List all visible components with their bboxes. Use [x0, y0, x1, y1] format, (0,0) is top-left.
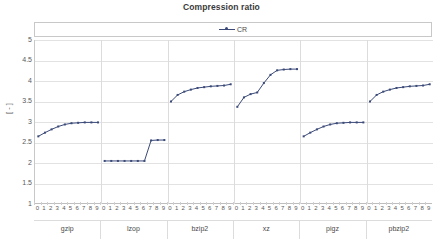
legend-label: CR	[237, 26, 247, 33]
data-point	[415, 85, 417, 87]
data-point	[243, 96, 245, 98]
data-point	[190, 89, 192, 91]
series-line-lzop	[105, 140, 165, 161]
data-point	[183, 91, 185, 93]
y-tick-label: 1	[6, 200, 32, 207]
data-point	[283, 69, 285, 71]
data-point	[409, 85, 411, 87]
data-point	[402, 86, 404, 88]
data-point	[356, 121, 358, 123]
x-group-label-bzip2: bzip2	[167, 225, 233, 232]
plot-grid	[34, 40, 432, 204]
x-group-label-pbzip2: pbzip2	[366, 225, 432, 232]
data-point	[210, 85, 212, 87]
data-point	[422, 85, 424, 87]
data-point	[157, 139, 159, 141]
y-tick-label: 1.5	[6, 179, 32, 186]
x-group-divider	[100, 221, 101, 239]
data-point	[104, 160, 106, 162]
data-point	[163, 139, 165, 141]
data-point	[263, 82, 265, 84]
data-point	[97, 121, 99, 123]
data-point	[230, 83, 232, 85]
data-point	[429, 83, 431, 85]
x-group-label-gzip: gzip	[34, 225, 100, 232]
data-point	[296, 68, 298, 70]
data-point	[256, 91, 258, 93]
data-point	[64, 123, 66, 125]
data-point	[329, 123, 331, 125]
data-point	[269, 74, 271, 76]
data-point	[276, 69, 278, 71]
y-tick-label: 5	[6, 36, 32, 43]
data-point	[396, 87, 398, 89]
data-point	[37, 135, 39, 137]
data-point	[137, 160, 139, 162]
data-point	[70, 122, 72, 124]
x-tick-label: 9	[425, 205, 432, 211]
y-tick-label: 4	[6, 77, 32, 84]
data-point	[150, 139, 152, 141]
legend-item-cr: CR	[219, 26, 247, 34]
chart-title: Compression ratio	[0, 2, 443, 12]
data-point	[369, 101, 371, 103]
data-point	[362, 121, 364, 123]
data-point	[57, 126, 59, 128]
data-point	[197, 87, 199, 89]
data-point	[382, 91, 384, 93]
y-tick-label: 2.5	[6, 138, 32, 145]
plot-area: CR	[34, 22, 432, 204]
x-group-label-xz: xz	[233, 225, 299, 232]
x-axis-group-labels: gziplzopbzip2xzpigzpbzip2	[34, 220, 432, 239]
x-group-divider	[366, 221, 367, 239]
data-point	[44, 132, 46, 134]
data-point	[289, 68, 291, 70]
data-point	[316, 128, 318, 130]
data-point	[223, 85, 225, 87]
data-point	[90, 121, 92, 123]
data-point	[77, 122, 79, 124]
series-line-pigz	[304, 122, 364, 136]
data-point	[309, 132, 311, 134]
data-point	[323, 126, 325, 128]
data-point	[342, 122, 344, 124]
data-point	[216, 85, 218, 87]
series-line-pbzip2	[370, 84, 430, 101]
chart-legend: CR	[34, 22, 432, 37]
series-cr	[35, 40, 433, 204]
x-group-divider	[299, 221, 300, 239]
data-point	[117, 160, 119, 162]
data-point	[170, 101, 172, 103]
series-line-gzip	[38, 122, 98, 136]
data-point	[51, 128, 53, 130]
data-point	[143, 160, 145, 162]
x-group-divider	[167, 221, 168, 239]
y-axis-tick-labels: 11.522.533.544.55	[0, 22, 32, 204]
y-tick-label: 2	[6, 159, 32, 166]
data-point	[389, 89, 391, 91]
data-point	[303, 135, 305, 137]
data-point	[336, 122, 338, 124]
y-tick-label: 3	[6, 118, 32, 125]
data-point	[376, 94, 378, 96]
compression-ratio-chart: Compression ratio [ - ] 11.522.533.544.5…	[0, 0, 443, 247]
data-point	[203, 86, 205, 88]
data-point	[236, 106, 238, 108]
line-marker-icon	[219, 26, 235, 34]
series-line-bzip2	[171, 84, 231, 101]
data-point	[110, 160, 112, 162]
series-line-xz	[237, 69, 297, 107]
data-point	[130, 160, 132, 162]
data-point	[124, 160, 126, 162]
data-point	[349, 121, 351, 123]
y-tick-label: 3.5	[6, 97, 32, 104]
x-axis-tick-labels: 0123456789012345678901234567890123456789…	[34, 205, 432, 219]
x-group-divider	[233, 221, 234, 239]
data-point	[84, 121, 86, 123]
x-group-label-lzop: lzop	[100, 225, 166, 232]
data-point	[250, 93, 252, 95]
data-point	[177, 94, 179, 96]
y-tick-label: 4.5	[6, 56, 32, 63]
x-group-label-pigz: pigz	[299, 225, 365, 232]
